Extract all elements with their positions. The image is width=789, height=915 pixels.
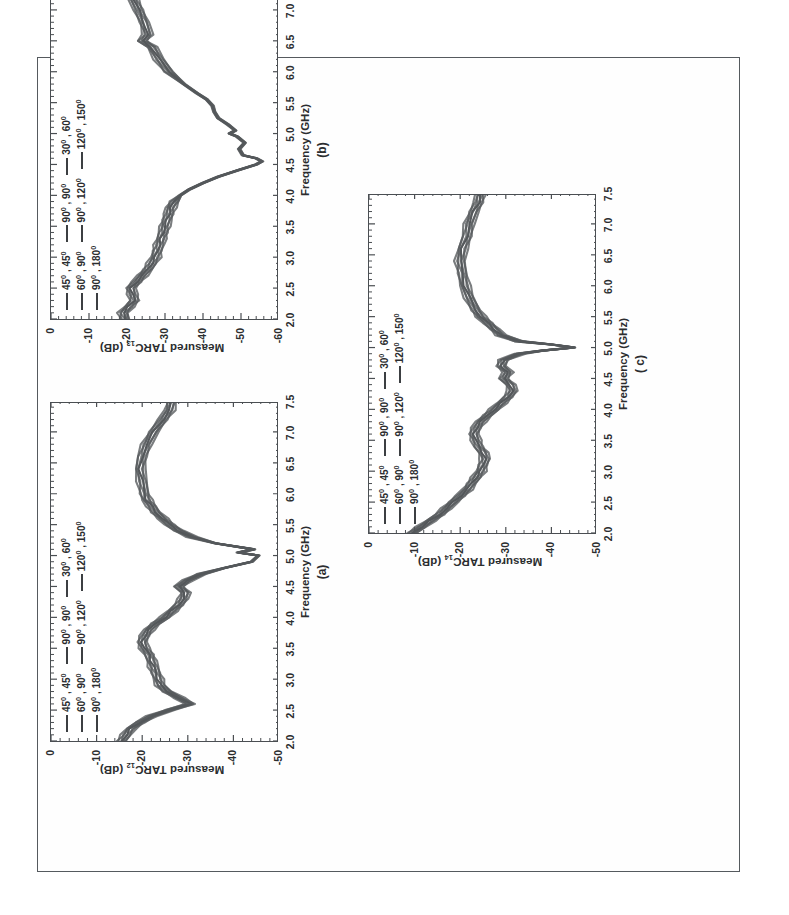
legend-row: 600 , 900900 , 12001200 , 1500	[77, 91, 87, 310]
legend-line-icon	[96, 715, 98, 732]
legend-line-icon	[96, 293, 98, 310]
x-tick-label: 7.0	[602, 218, 614, 233]
legend-line-icon	[384, 439, 386, 456]
y-tick-label: -60	[272, 328, 284, 364]
legend-item-label: 450 , 450	[62, 251, 72, 290]
legend-item[interactable]: 600 , 900	[77, 673, 87, 732]
panel-c: 450 , 450900 , 900300 , 600600 , 900900 …	[368, 188, 656, 578]
legend-line-icon	[66, 580, 68, 597]
y-axis-label-c: Measured TARC14 (dB)	[400, 556, 560, 568]
x-tick-label: 5.5	[284, 96, 296, 111]
panel-b-inner: 450 , 450900 , 900300 , 600600 , 900900 …	[50, 0, 338, 364]
degree-superscript: 0	[59, 184, 68, 188]
tarc-index-subscript: 12	[126, 761, 135, 770]
legend-item[interactable]: 1200 , 1500	[395, 314, 405, 384]
legend-item[interactable]: 900 , 900	[380, 398, 390, 457]
legend-item[interactable]: 300 , 600	[62, 538, 72, 597]
legend-item[interactable]: 900 , 1800	[410, 460, 420, 524]
scanned-page-sheet: 450 , 450900 , 900300 , 600600 , 900900 …	[37, 57, 740, 872]
legend-line-icon	[66, 293, 68, 310]
x-tick-label: 4.5	[284, 580, 296, 595]
x-tick-label: 7.0	[284, 426, 296, 441]
legend-line-icon	[66, 158, 68, 175]
legend-item[interactable]: 900 , 1800	[92, 668, 102, 732]
degree-superscript: 0	[74, 251, 83, 255]
x-tick-label: 4.0	[284, 189, 296, 204]
data-trace	[117, 0, 261, 319]
legend-item[interactable]: 450 , 450	[62, 673, 72, 732]
panel-a: 450 , 450900 , 900300 , 600600 , 900900 …	[50, 396, 338, 786]
legend-item-label: 300 , 600	[62, 538, 72, 577]
legend-item-label: 450 , 450	[380, 465, 390, 504]
degree-superscript: 0	[74, 551, 83, 555]
degree-superscript: 0	[377, 330, 386, 334]
x-tick-label: 4.5	[602, 372, 614, 387]
degree-superscript: 0	[89, 275, 98, 279]
degree-superscript: 0	[59, 697, 68, 701]
legend-row: 900 , 1800	[92, 513, 102, 732]
x-tick-label: 6.5	[602, 249, 614, 264]
legend-item[interactable]: 450 , 450	[62, 251, 72, 310]
data-trace	[126, 402, 260, 741]
legend-item-label: 900 , 1800	[92, 668, 102, 712]
legend-item[interactable]: 1200 , 1500	[77, 522, 87, 592]
y-tick-label: -50	[272, 750, 284, 786]
degree-superscript: 0	[59, 140, 68, 144]
legend-item-label: 600 , 900	[395, 465, 405, 504]
x-tick-label: 3.5	[284, 220, 296, 235]
data-trace	[412, 194, 573, 533]
y-tick-label: -50	[590, 542, 602, 578]
data-trace	[414, 194, 575, 533]
legend-item-label: 900 , 900	[62, 184, 72, 223]
legend-item[interactable]: 900 , 1800	[92, 246, 102, 310]
legend-item-label: 900 , 1200	[395, 392, 405, 436]
degree-superscript: 0	[74, 100, 83, 104]
legend-item[interactable]: 900 , 900	[62, 606, 72, 665]
legend-line-icon	[384, 372, 386, 389]
legend-item[interactable]: 600 , 900	[395, 465, 405, 524]
data-trace	[408, 194, 574, 533]
x-tick-label: 4.5	[284, 158, 296, 173]
legend-item[interactable]: 300 , 600	[380, 330, 390, 389]
legend-line-icon	[81, 152, 83, 169]
legend-item[interactable]: 300 , 600	[62, 116, 72, 175]
x-tick-label: 2.5	[284, 282, 296, 297]
x-tick-label: 6.5	[284, 35, 296, 50]
legend-item[interactable]: 450 , 450	[380, 465, 390, 524]
legend-line-icon	[81, 293, 83, 310]
degree-superscript: 0	[59, 275, 68, 279]
degree-superscript: 0	[89, 697, 98, 701]
legend-line-icon	[384, 507, 386, 524]
legend-item[interactable]: 900 , 900	[62, 184, 72, 243]
degree-superscript: 0	[59, 629, 68, 633]
degree-superscript: 0	[74, 178, 83, 182]
legend-item[interactable]: 900 , 1200	[77, 178, 87, 242]
degree-superscript: 0	[392, 489, 401, 493]
data-trace	[122, 402, 259, 741]
data-trace	[412, 194, 574, 533]
x-tick-label: 5.5	[284, 518, 296, 533]
x-tick-label: 7.5	[284, 395, 296, 410]
x-tick-label: 4.0	[284, 611, 296, 626]
panel-b: 450 , 450900 , 900300 , 600600 , 900900 …	[50, 0, 338, 364]
legend-row: 600 , 900900 , 12001200 , 1500	[77, 513, 87, 732]
tarc-index-subscript: 13	[126, 339, 135, 348]
legend-item-label: 900 , 1200	[77, 178, 87, 222]
y-axis-label-b: Measured TARC13 (dB)	[82, 342, 242, 354]
legend-item-label: 1200 , 1500	[77, 100, 87, 150]
legend-item-label: 900 , 1800	[92, 246, 102, 290]
degree-superscript: 0	[392, 465, 401, 469]
x-tick-label: 5.0	[602, 341, 614, 356]
legend-item[interactable]: 900 , 1200	[395, 392, 405, 456]
degree-superscript: 0	[59, 562, 68, 566]
degree-superscript: 0	[377, 421, 386, 425]
legend-item[interactable]: 1200 , 1500	[77, 100, 87, 170]
legend-line-icon	[399, 366, 401, 383]
x-tick-label: 5.0	[284, 549, 296, 564]
legend-item-label: 900 , 900	[62, 606, 72, 645]
legend-item[interactable]: 600 , 900	[77, 251, 87, 310]
x-tick-label: 6.5	[284, 457, 296, 472]
x-axis-label-b: Frequency (GHz)	[299, 0, 311, 320]
legend-item[interactable]: 900 , 1200	[77, 600, 87, 664]
degree-superscript: 0	[74, 697, 83, 701]
